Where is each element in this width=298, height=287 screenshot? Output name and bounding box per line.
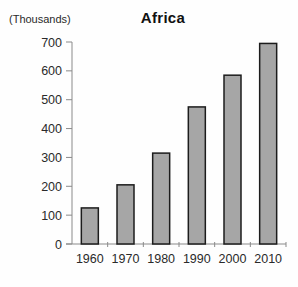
y-tick-label: 0 xyxy=(55,238,62,252)
x-category-label: 1970 xyxy=(112,252,140,266)
y-tick-label: 400 xyxy=(41,122,62,136)
y-tick-label: 700 xyxy=(41,36,62,50)
y-tick-label: 300 xyxy=(41,151,62,165)
x-category-label: 1990 xyxy=(183,252,211,266)
x-category-label: 1980 xyxy=(147,252,175,266)
y-tick-label: 100 xyxy=(41,209,62,223)
y-tick-label: 500 xyxy=(41,93,62,107)
bar xyxy=(117,185,134,244)
y-tick-label: 600 xyxy=(41,64,62,78)
bar xyxy=(188,107,205,244)
bar xyxy=(153,153,170,244)
x-category-label: 2010 xyxy=(254,252,282,266)
x-category-label: 2000 xyxy=(219,252,247,266)
chart-canvas: 0100200300400500600700196019701980199020… xyxy=(0,0,298,287)
bar xyxy=(224,75,241,244)
bar xyxy=(260,43,277,244)
bar xyxy=(81,208,98,244)
bar-chart-figure: (Thousands) Africa 010020030040050060070… xyxy=(0,0,298,287)
y-tick-label: 200 xyxy=(41,180,62,194)
x-category-label: 1960 xyxy=(76,252,104,266)
